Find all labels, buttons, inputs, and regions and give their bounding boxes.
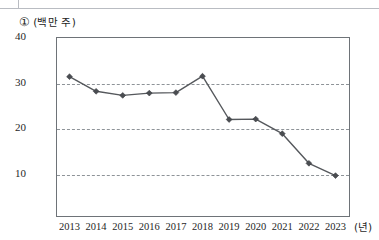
line-chart-figure: ①(백만 주) 10203040 20132014201520162017201… <box>0 0 379 240</box>
series-line <box>70 76 336 175</box>
data-series-layer <box>0 0 379 240</box>
x-axis-unit-label: (년) <box>354 222 372 233</box>
series-markers <box>67 73 339 178</box>
data-point-marker <box>120 93 126 99</box>
data-point-marker <box>93 88 99 94</box>
data-point-marker <box>67 74 73 80</box>
x-tick-label: 2023 <box>319 222 353 233</box>
data-point-marker <box>253 116 259 122</box>
data-point-marker <box>333 173 339 179</box>
data-point-marker <box>146 90 152 96</box>
